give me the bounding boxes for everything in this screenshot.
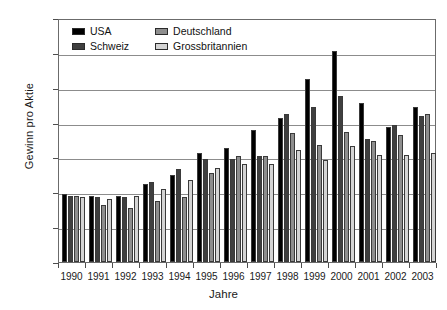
bar — [278, 118, 283, 262]
x-tick-mark — [382, 263, 383, 268]
legend-label: Deutschland — [173, 25, 231, 37]
bar — [359, 103, 364, 262]
x-tick-mark — [247, 263, 248, 268]
bar-group — [89, 20, 113, 262]
bar-group — [386, 20, 410, 262]
bar — [209, 173, 214, 262]
x-tick-mark — [85, 263, 86, 268]
bar — [155, 201, 160, 262]
bar — [236, 156, 241, 262]
bar-group — [359, 20, 383, 262]
bar — [377, 155, 382, 262]
bar — [74, 196, 79, 262]
bar-group — [143, 20, 167, 262]
legend-entry: Deutschland — [155, 25, 247, 37]
bar — [284, 114, 289, 262]
bar — [392, 125, 397, 262]
bar-group — [197, 20, 221, 262]
x-tick-mark — [139, 263, 140, 268]
bar-group — [170, 20, 194, 262]
bar — [269, 164, 274, 262]
bar — [398, 135, 403, 262]
bar — [251, 130, 256, 262]
bar — [215, 168, 220, 262]
bar — [317, 145, 322, 262]
bar — [230, 159, 235, 262]
bar — [290, 133, 295, 262]
legend-swatch — [72, 43, 85, 50]
bar — [89, 196, 94, 262]
bar — [350, 146, 355, 262]
legend-swatch — [72, 28, 85, 35]
bar — [107, 199, 112, 262]
bar — [197, 153, 202, 262]
bar — [257, 156, 262, 262]
bar — [68, 196, 73, 262]
bar — [263, 156, 268, 262]
bar — [365, 139, 370, 262]
bar — [161, 189, 166, 262]
bar — [371, 141, 376, 262]
bar — [95, 197, 100, 262]
bar-group — [116, 20, 140, 262]
x-tick-mark — [274, 263, 275, 268]
bar — [338, 96, 343, 262]
bar — [224, 148, 229, 262]
bar — [332, 51, 337, 262]
x-tick-mark — [220, 263, 221, 268]
bar — [188, 180, 193, 262]
bar-group — [251, 20, 275, 262]
x-tick-mark — [409, 263, 410, 268]
bar — [404, 155, 409, 262]
bar — [149, 182, 154, 262]
bar — [134, 196, 139, 262]
bar — [203, 159, 208, 262]
bar — [116, 196, 121, 262]
plot-area: USADeutschlandSchweizGrossbritannien — [58, 19, 436, 263]
x-tick-mark — [355, 263, 356, 268]
y-axis-title: Gewinn pro Aktie — [23, 46, 35, 206]
x-tick-mark — [112, 263, 113, 268]
x-tick-mark — [436, 263, 437, 268]
legend-label: USA — [90, 25, 112, 37]
bar — [122, 197, 127, 262]
chart-screenshot: Gewinn pro Aktie 050100150200250300350 U… — [0, 0, 447, 310]
legend-swatch — [155, 43, 168, 50]
bar — [431, 153, 436, 262]
bar — [386, 127, 391, 262]
bar — [143, 184, 148, 262]
bar — [305, 79, 310, 262]
x-tick-label: 2003 — [403, 271, 443, 282]
bar — [170, 175, 175, 262]
bar — [413, 107, 418, 262]
bar-group — [413, 20, 437, 262]
x-tick-mark — [301, 263, 302, 268]
bar — [80, 197, 85, 262]
legend-entry: Schweiz — [72, 40, 129, 52]
bar — [176, 169, 181, 262]
bar-group — [62, 20, 86, 262]
legend-entry: Grossbritannien — [155, 40, 247, 52]
legend-label: Schweiz — [90, 40, 129, 52]
legend-entry: USA — [72, 25, 129, 37]
bar — [242, 164, 247, 262]
x-tick-mark — [166, 263, 167, 268]
bar — [344, 132, 349, 262]
bar-groups — [59, 20, 435, 262]
bar — [101, 205, 106, 262]
x-tick-mark — [193, 263, 194, 268]
bar — [182, 197, 187, 262]
bar — [311, 107, 316, 262]
bar — [323, 160, 328, 262]
x-axis-title: Jahre — [0, 288, 447, 300]
bar-group — [305, 20, 329, 262]
bar — [419, 116, 424, 262]
x-tick-mark — [58, 263, 59, 268]
bar — [62, 194, 67, 262]
bar — [128, 208, 133, 262]
legend-swatch — [155, 28, 168, 35]
legend: USADeutschlandSchweizGrossbritannien — [70, 24, 249, 53]
legend-label: Grossbritannien — [173, 40, 247, 52]
bar-group — [224, 20, 248, 262]
x-tick-mark — [328, 263, 329, 268]
